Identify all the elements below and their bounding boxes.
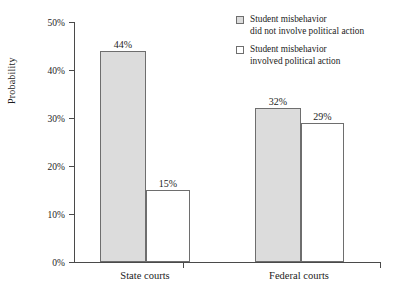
bar-value-federal-nonpolitical: 32% <box>269 96 287 107</box>
bar-value-state-nonpolitical: 44% <box>114 39 132 50</box>
y-tick-0: 0% <box>69 262 75 263</box>
y-tick-label-0: 0% <box>52 258 65 268</box>
x-group-label-federal-courts: Federal courts <box>269 270 329 281</box>
x-tick-divider <box>183 262 184 268</box>
y-tick-10: 10% <box>69 214 75 215</box>
y-tick-label-40: 40% <box>48 66 65 76</box>
bar-federal-courts-nonpolitical: 32% <box>255 108 301 262</box>
bar-federal-courts-political: 29% <box>301 123 344 262</box>
x-axis-line <box>74 262 381 263</box>
y-tick-label-30: 30% <box>48 114 65 124</box>
bar-state-courts-political: 15% <box>146 190 190 262</box>
y-tick-50: 50% <box>69 22 75 23</box>
legend-label-nonpolitical: Student misbehavior did not involve poli… <box>250 14 364 37</box>
legend-swatch-hollow-icon <box>236 46 244 54</box>
x-group-label-state-courts: State courts <box>120 270 169 281</box>
bar-value-federal-political: 29% <box>313 111 331 122</box>
y-tick-label-50: 50% <box>48 18 65 28</box>
y-tick-20: 20% <box>69 166 75 167</box>
legend-label-political-line1: Student misbehavior <box>250 44 340 56</box>
y-tick-30: 30% <box>69 118 75 119</box>
y-tick-40: 40% <box>69 70 75 71</box>
legend-swatch-filled-icon <box>236 16 244 24</box>
x-tick-end <box>380 262 381 268</box>
bar-chart: Probability 50% 40% 30% 20% 10% 0% 44% 1… <box>0 0 395 294</box>
legend-label-political: Student misbehavior involved political a… <box>250 44 340 67</box>
legend-label-nonpolitical-line1: Student misbehavior <box>250 14 364 26</box>
legend-label-political-line2: involved political action <box>250 56 340 68</box>
bar-state-courts-nonpolitical: 44% <box>100 51 146 262</box>
legend: Student misbehavior did not involve poli… <box>236 14 394 74</box>
y-axis-line <box>74 22 75 263</box>
legend-label-nonpolitical-line2: did not involve political action <box>250 26 364 38</box>
legend-item-nonpolitical: Student misbehavior did not involve poli… <box>236 14 394 37</box>
bar-value-state-political: 15% <box>159 178 177 189</box>
y-axis-title: Probability <box>6 57 17 104</box>
y-tick-label-10: 10% <box>48 210 65 220</box>
y-tick-label-20: 20% <box>48 162 65 172</box>
legend-item-political: Student misbehavior involved political a… <box>236 44 394 67</box>
